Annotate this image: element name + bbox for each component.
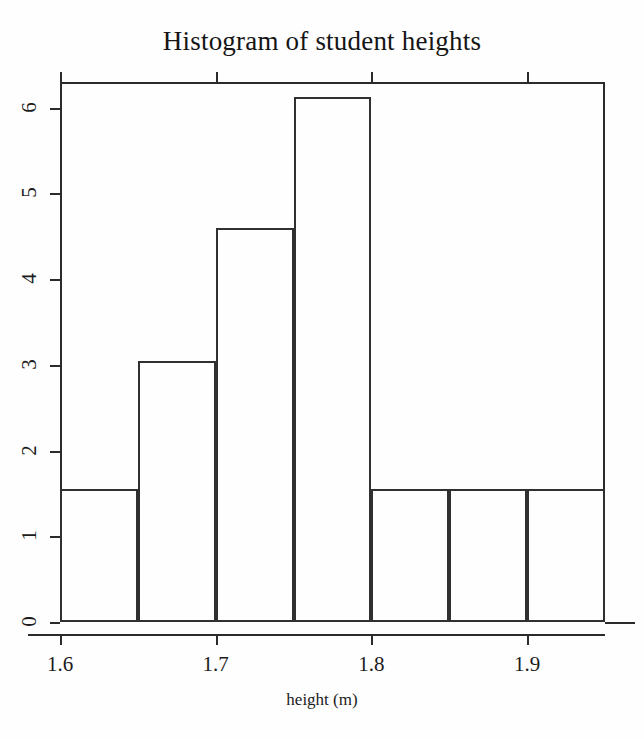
histogram-bar [138, 361, 216, 622]
x-axis-line [60, 634, 605, 636]
y-axis-tick-label: 2 [17, 433, 42, 467]
x-axis-tick-label: 1.6 [25, 652, 95, 677]
x-axis-tick-top [216, 72, 218, 82]
y-axis-tick [50, 108, 60, 110]
x-axis-tick-top [371, 72, 373, 82]
x-axis-line-left-cap [28, 634, 60, 636]
chart-title: Histogram of student heights [0, 26, 644, 57]
histogram-bar [449, 489, 527, 622]
x-axis-tick-label: 1.9 [492, 652, 562, 677]
x-axis-title: height (m) [0, 690, 644, 710]
y-axis-tick-label: 6 [17, 90, 42, 124]
y-axis-tick [50, 622, 60, 624]
histogram-bar [60, 489, 138, 622]
y-axis-tick [50, 536, 60, 538]
x-axis-tick-label: 1.8 [336, 652, 406, 677]
x-axis-tick-top [60, 72, 62, 82]
y-axis-tick [50, 365, 60, 367]
histogram-bar [216, 228, 294, 622]
x-axis-line-right-cap [605, 622, 635, 624]
histogram-bar [527, 489, 605, 622]
y-axis-tick-label: 4 [17, 262, 42, 296]
histogram-figure: Histogram of student heights 0123456 1.6… [0, 0, 644, 740]
y-axis-tick-label: 5 [17, 176, 42, 210]
x-axis-tick-label: 1.7 [181, 652, 251, 677]
histogram-bar [371, 489, 449, 622]
y-axis-tick-label: 3 [17, 347, 42, 381]
y-axis-tick [50, 279, 60, 281]
y-axis-tick-label: 1 [17, 519, 42, 553]
y-axis-tick [50, 193, 60, 195]
x-axis-tick-top [527, 72, 529, 82]
y-axis-tick [50, 451, 60, 453]
bars-layer [60, 82, 605, 622]
histogram-bar [294, 97, 372, 622]
